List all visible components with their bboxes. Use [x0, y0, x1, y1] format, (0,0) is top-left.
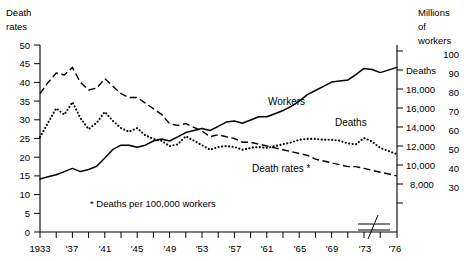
series-label-deaths: Deaths: [335, 117, 367, 128]
series-deaths-line: [40, 102, 397, 154]
x-tick-label: '41: [99, 243, 111, 254]
x-tick-label: '57: [229, 243, 241, 254]
right-axis-workers-title-line3: workers: [417, 35, 452, 46]
left-tick-label: 35: [19, 96, 30, 107]
left-axis-ticks: [34, 45, 40, 232]
workers-tick-label: 90: [448, 68, 459, 79]
x-tick-label: '37: [66, 243, 78, 254]
workers-tick-label: 80: [448, 87, 459, 98]
right-axis-deaths-labels: Deaths 18,000 16,000 14,000 12,000 10,00…: [406, 65, 436, 190]
left-tick-label: 5: [25, 208, 30, 219]
x-tick-label: 1933: [29, 243, 50, 254]
deaths-tick-label: 12,000: [406, 141, 435, 152]
left-tick-label: 0: [25, 227, 30, 238]
x-tick-label: '49: [164, 243, 176, 254]
right-axis-deaths-title: Deaths: [406, 65, 436, 76]
deaths-tick-label: 16,000: [406, 103, 435, 114]
right-axis-workers-labels: 100 90 80 70 60 50 40 30: [443, 49, 459, 193]
right-axis-workers-title-line2: of: [418, 21, 426, 32]
x-tick-label: '65: [294, 243, 306, 254]
x-axis-tick-labels: 1933 '37 '41 '45 '49 '53 '57 '61 '65 '69…: [29, 243, 401, 254]
chart-footnote: * Deaths per 100,000 workers: [90, 198, 216, 209]
workers-tick-label: 30: [448, 182, 459, 193]
x-axis-ticks: [40, 232, 397, 238]
right-axis-workers-title-line1: Millions: [418, 7, 450, 18]
left-tick-label: 25: [19, 133, 30, 144]
workers-tick-label: 60: [448, 125, 459, 136]
axis-break-symbol: [358, 215, 390, 239]
occupational-deaths-chart: Death rates Millions of workers 50: [0, 0, 464, 261]
workers-tick-label: 50: [448, 144, 459, 155]
left-axis-title-line1: Death: [6, 7, 31, 18]
left-tick-label: 15: [19, 170, 30, 181]
left-tick-label: 40: [19, 77, 30, 88]
right-axis-ticks: [397, 51, 403, 203]
x-tick-label: '45: [131, 243, 143, 254]
workers-tick-label: 40: [448, 163, 459, 174]
x-tick-label: '69: [326, 243, 338, 254]
x-tick-label: '76: [389, 243, 401, 254]
deaths-tick-label: 10,000: [406, 160, 435, 171]
series-label-death-rates: Death rates *: [252, 163, 310, 174]
x-tick-label: '73: [359, 243, 371, 254]
deaths-tick-label: 14,000: [406, 122, 435, 133]
left-tick-label: 45: [19, 58, 30, 69]
left-tick-label: 50: [19, 40, 30, 51]
x-tick-label: '53: [196, 243, 208, 254]
deaths-tick-label: 18,000: [406, 84, 435, 95]
chart-container: Death rates Millions of workers 50: [0, 0, 464, 261]
left-tick-label: 10: [19, 189, 30, 200]
left-axis-title-line2: rates: [6, 21, 27, 32]
left-tick-label: 20: [19, 152, 30, 163]
x-tick-label: '61: [261, 243, 273, 254]
workers-tick-label: 100: [443, 49, 459, 60]
left-tick-label: 30: [19, 114, 30, 125]
deaths-tick-label: 8,000: [410, 179, 434, 190]
series-label-workers: Workers: [268, 96, 305, 107]
workers-tick-label: 70: [448, 106, 459, 117]
left-axis-tick-labels: 50 45 40 35 30 25 20 15 10 5 0: [19, 40, 30, 238]
